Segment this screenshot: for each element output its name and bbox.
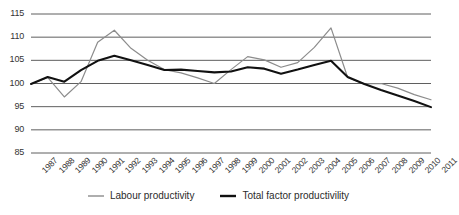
- x-tick-label: 2011: [440, 156, 459, 175]
- legend-item: Labour productivity: [88, 190, 195, 201]
- legend-label: Labour productivity: [110, 190, 195, 201]
- chart-legend: Labour productivityTotal factor producti…: [0, 190, 437, 201]
- y-tick-label: 110: [2, 32, 24, 41]
- legend-line-icon: [88, 192, 104, 200]
- series-line-total-factor-productivility: [31, 56, 431, 107]
- y-tick-label: 85: [2, 148, 24, 157]
- y-tick-label: 90: [2, 125, 24, 134]
- y-tick-label: 95: [2, 102, 24, 111]
- legend-item: Total factor productivility: [220, 190, 349, 201]
- y-tick-label: 100: [2, 79, 24, 88]
- y-tick-label: 105: [2, 55, 24, 64]
- legend-line-icon: [220, 192, 236, 200]
- y-tick-label: 115: [2, 9, 24, 18]
- series-group: [31, 28, 431, 107]
- legend-label: Total factor productivility: [242, 190, 349, 201]
